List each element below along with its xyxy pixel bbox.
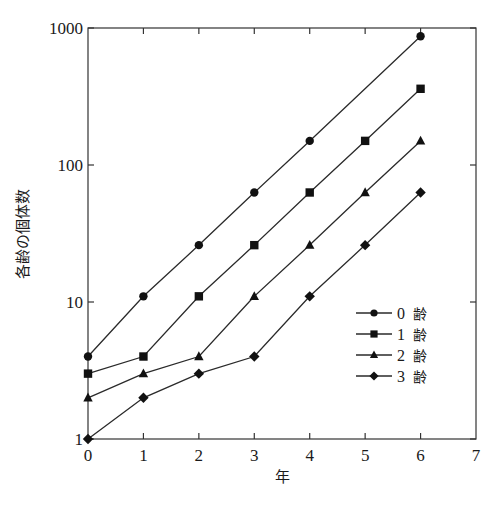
x-tick-label: 4	[305, 446, 314, 465]
legend-label-kanji: 齢	[413, 306, 427, 322]
x-tick-label: 2	[195, 446, 204, 465]
diamond-marker-icon	[369, 371, 378, 380]
square-marker-icon	[250, 241, 258, 249]
circle-marker-icon	[250, 188, 258, 196]
legend-label-kanji: 齢	[413, 369, 427, 385]
x-tick-label: 7	[472, 446, 481, 465]
square-marker-icon	[361, 137, 369, 145]
circle-marker-icon	[195, 241, 203, 249]
square-marker-icon	[416, 85, 424, 93]
x-axis-title: 年	[275, 468, 290, 486]
legend-item-2: 2齢	[356, 347, 427, 364]
y-axis: 1101001000	[49, 19, 476, 449]
series-line	[88, 193, 421, 440]
legend-label-kanji: 齢	[413, 348, 427, 364]
legend-label-number: 3	[397, 368, 405, 385]
circle-marker-icon	[306, 137, 314, 145]
square-marker-icon	[306, 188, 314, 196]
x-tick-label: 5	[361, 446, 370, 465]
legend-label-number: 0	[397, 305, 405, 322]
legend-item-0: 0齢	[356, 305, 427, 322]
square-marker-icon	[195, 292, 203, 300]
series-group	[83, 32, 426, 444]
circle-marker-icon	[84, 352, 92, 360]
diamond-marker-icon	[194, 368, 204, 378]
triangle-marker-icon	[370, 350, 378, 358]
population-chart: 1101001000 01234567 0齢1齢2齢3齢 年 各齢の個体数	[0, 0, 498, 518]
legend-label-kanji: 齢	[413, 327, 427, 343]
x-tick-label: 6	[416, 446, 425, 465]
x-tick-label: 0	[84, 446, 93, 465]
triangle-marker-icon	[416, 136, 425, 145]
x-tick-label: 1	[139, 446, 148, 465]
square-marker-icon	[370, 330, 377, 337]
legend: 0齢1齢2齢3齢	[356, 305, 427, 385]
legend-label-number: 1	[397, 326, 405, 343]
circle-marker-icon	[139, 292, 147, 300]
y-axis-title: 各齢の個体数	[14, 189, 32, 279]
square-marker-icon	[84, 369, 92, 377]
y-axis-title-text: 各齢の個体数	[14, 189, 32, 279]
y-tick-label: 10	[66, 293, 83, 312]
legend-item-1: 1齢	[356, 326, 427, 343]
legend-label-number: 2	[397, 347, 405, 364]
y-tick-label: 100	[58, 156, 84, 175]
y-tick-label: 1000	[49, 19, 83, 38]
circle-marker-icon	[416, 32, 424, 40]
y-tick-label: 1	[75, 430, 84, 449]
x-tick-label: 3	[250, 446, 259, 465]
legend-item-3: 3齢	[356, 368, 427, 385]
diamond-marker-icon	[138, 393, 148, 403]
circle-marker-icon	[370, 309, 377, 316]
square-marker-icon	[139, 352, 147, 360]
diamond-marker-icon	[83, 434, 93, 444]
